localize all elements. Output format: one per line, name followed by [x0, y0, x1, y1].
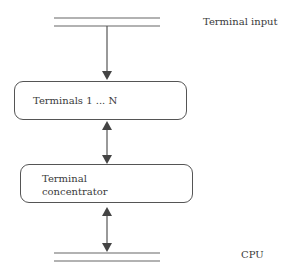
arrow-input-to-terminals — [102, 26, 112, 80]
arrow-concentrator-cpu — [102, 207, 112, 252]
cpu-label: CPU — [241, 249, 264, 261]
terminal-input-bus — [54, 18, 160, 26]
concentrator-box-label-line1: Terminal — [42, 172, 87, 185]
terminal-input-label: Terminal input — [203, 16, 278, 28]
diagram-canvas — [0, 0, 284, 275]
terminals-box: Terminals 1 ... N — [14, 81, 187, 120]
arrow-terminals-concentrator — [102, 121, 112, 164]
terminal-concentrator-box: Terminal concentrator — [20, 164, 193, 203]
concentrator-box-label-line2: concentrator — [42, 185, 108, 198]
cpu-bus — [54, 253, 160, 261]
terminals-box-label: Terminals 1 ... N — [33, 94, 117, 107]
